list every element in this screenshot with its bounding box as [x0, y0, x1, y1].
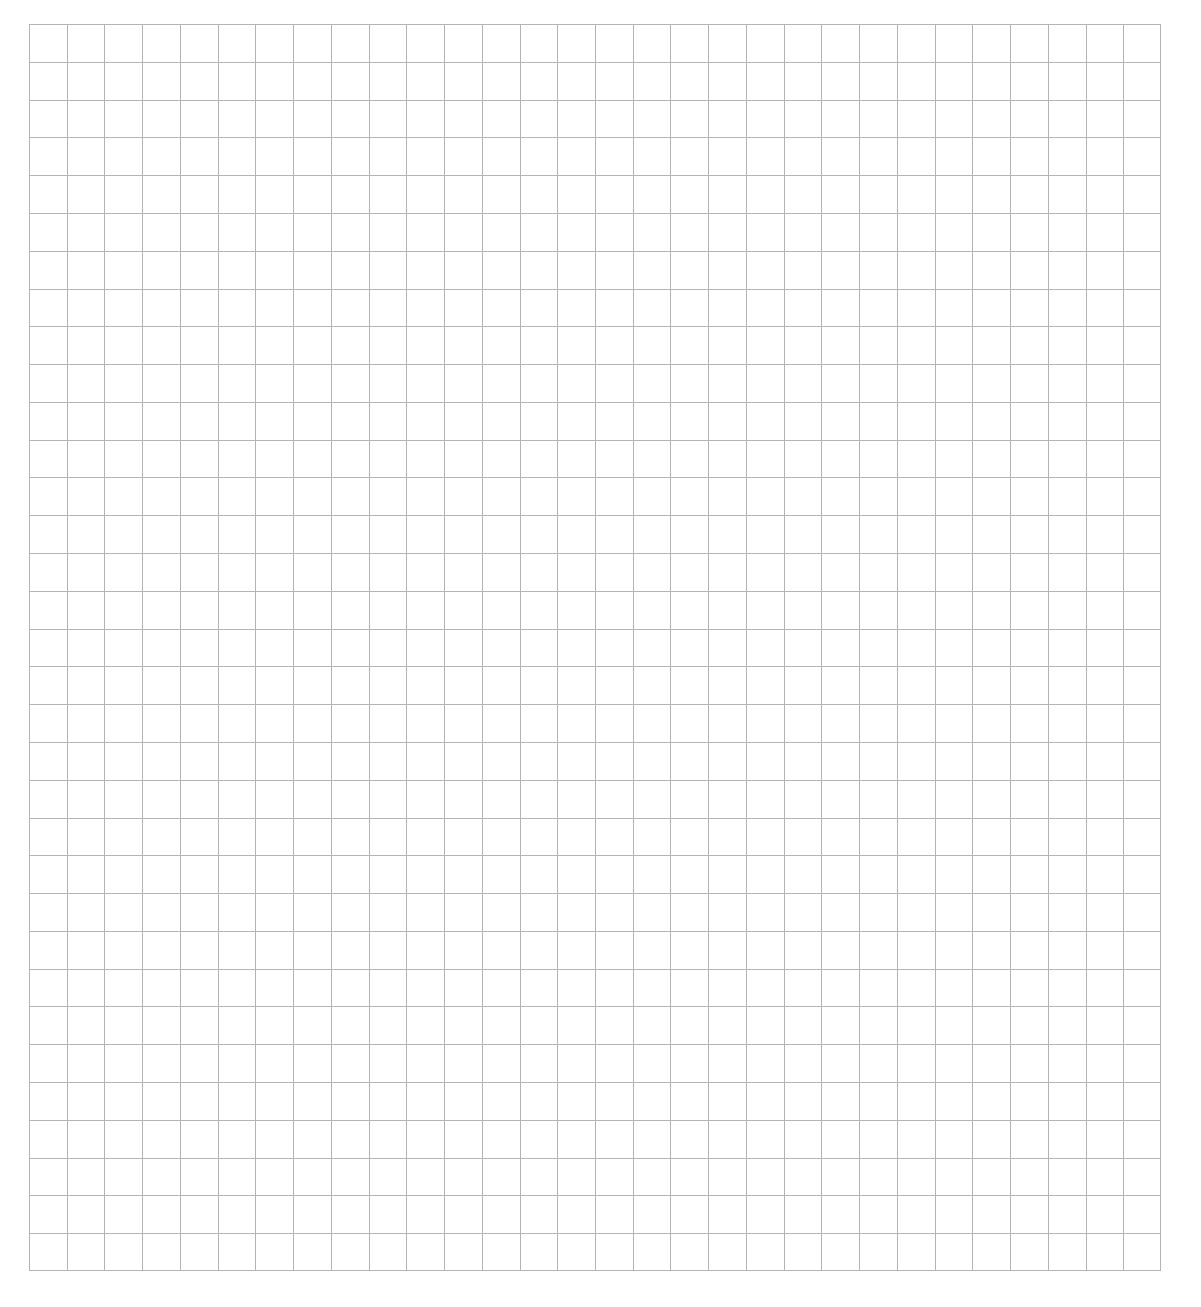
grid-lines [29, 24, 1161, 1271]
graph-paper-grid [29, 24, 1161, 1271]
